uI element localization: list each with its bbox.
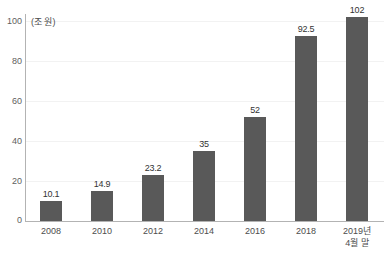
category-label-2019: 2019년 4월 말 <box>333 225 381 249</box>
bar-value-2008: 10.1 <box>27 189 75 199</box>
category-label-2018: 2018 <box>282 225 330 237</box>
bar-group-2012 <box>129 175 177 221</box>
bar-2012 <box>142 175 164 221</box>
category-label-2008: 2008 <box>27 225 75 237</box>
bar-2016 <box>244 117 266 221</box>
bar-2008 <box>40 201 62 221</box>
bar-value-2012: 23.2 <box>129 163 177 173</box>
category-label-2014: 2014 <box>180 225 228 237</box>
bars-layer: 10.1 2008 14.9 2010 23.2 2012 35 2014 52… <box>0 0 392 253</box>
bar-group-2014 <box>180 151 228 221</box>
bar-value-2019: 102 <box>333 5 381 15</box>
bar-2019 <box>346 17 368 221</box>
category-label-2016: 2016 <box>231 225 279 237</box>
bar-chart: 100 80 60 40 20 0 (조 원) 10.1 2008 14.9 2… <box>0 0 392 253</box>
bar-group-2018 <box>282 36 330 221</box>
bar-2010 <box>91 191 113 221</box>
category-label-2012: 2012 <box>129 225 177 237</box>
bar-value-2016: 52 <box>231 105 279 115</box>
bar-2014 <box>193 151 215 221</box>
bar-group-2019 <box>333 17 381 221</box>
bar-value-2014: 35 <box>180 139 228 149</box>
bar-value-2018: 92.5 <box>282 24 330 34</box>
bar-value-2010: 14.9 <box>78 179 126 189</box>
bar-2018 <box>295 36 317 221</box>
bar-group-2008 <box>27 201 75 221</box>
category-label-2010: 2010 <box>78 225 126 237</box>
bar-group-2016 <box>231 117 279 221</box>
bar-group-2010 <box>78 191 126 221</box>
